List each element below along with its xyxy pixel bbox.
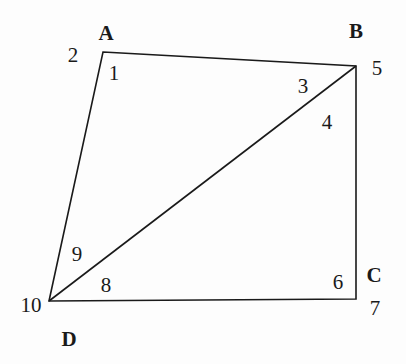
angle-label-10: 10 <box>21 295 42 316</box>
angle-label-3: 3 <box>298 76 309 97</box>
diagonal-db-line <box>49 66 356 301</box>
angle-label-9: 9 <box>72 244 83 265</box>
angle-label-8: 8 <box>101 275 112 296</box>
geometry-diagram: ABCD12345678910 <box>0 0 406 364</box>
vertex-label-a: A <box>98 23 113 44</box>
figure-svg <box>0 0 406 364</box>
angle-label-2: 2 <box>68 45 79 66</box>
angle-label-5: 5 <box>372 58 383 79</box>
vertex-label-d: D <box>61 329 76 350</box>
vertex-label-c: C <box>366 265 381 286</box>
vertex-label-b: B <box>349 21 363 42</box>
angle-label-6: 6 <box>333 272 344 293</box>
quadrilateral-abcd <box>49 52 356 301</box>
angle-label-4: 4 <box>322 112 333 133</box>
angle-label-1: 1 <box>109 63 120 84</box>
angle-label-7: 7 <box>370 298 381 319</box>
